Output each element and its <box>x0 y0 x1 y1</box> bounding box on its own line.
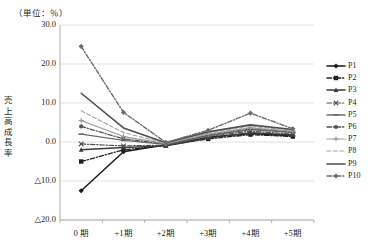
axis-lines <box>60 25 314 223</box>
legend-key-icon <box>326 98 346 108</box>
gridlines <box>60 25 314 220</box>
legend-key-icon <box>326 73 346 83</box>
legend-item-p6[interactable]: P6 <box>326 121 372 133</box>
legend-key-icon <box>326 159 346 169</box>
legend-item-p1[interactable]: P1 <box>326 60 372 72</box>
legend-key-icon <box>326 146 346 156</box>
legend-label: P9 <box>348 159 356 169</box>
legend-item-p10[interactable]: P10 <box>326 170 372 182</box>
legend-item-p9[interactable]: P9 <box>326 158 372 170</box>
legend-item-p5[interactable]: P5 <box>326 109 372 121</box>
legend-label: P2 <box>348 73 356 83</box>
sales-growth-line-chart: （単位：％） 売上高成長率 30.020.010.00.0△10.0△20.0 … <box>0 0 372 245</box>
legend-label: P5 <box>348 110 356 120</box>
legend-key-icon <box>326 122 346 132</box>
legend-label: P1 <box>348 61 356 71</box>
legend-item-p2[interactable]: P2 <box>326 72 372 84</box>
plot-area <box>0 0 372 245</box>
legend-label: P3 <box>348 85 356 95</box>
legend-key-icon <box>326 171 346 181</box>
legend: P1P2P3P4P5P6P7P8P9P10 <box>326 60 372 182</box>
legend-key-icon <box>326 134 346 144</box>
legend-label: P7 <box>348 134 356 144</box>
legend-item-p8[interactable]: P8 <box>326 145 372 157</box>
legend-item-p7[interactable]: P7 <box>326 133 372 145</box>
legend-key-icon <box>326 110 346 120</box>
legend-label: P4 <box>348 98 356 108</box>
legend-item-p3[interactable]: P3 <box>326 84 372 96</box>
legend-key-icon <box>326 85 346 95</box>
legend-item-p4[interactable]: P4 <box>326 97 372 109</box>
legend-key-icon <box>326 61 346 71</box>
legend-label: P8 <box>348 146 356 156</box>
legend-label: P6 <box>348 122 356 132</box>
legend-label: P10 <box>348 171 360 181</box>
series-lines <box>78 44 295 194</box>
